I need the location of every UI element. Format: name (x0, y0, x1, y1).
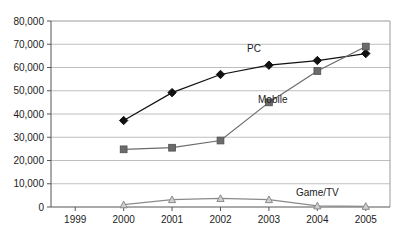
y-axis-tick-label: 0 (38, 202, 44, 213)
x-axis-tick-label: 2002 (209, 214, 232, 225)
series-annotation-pc: PC (247, 43, 261, 54)
x-axis-tick-label: 2001 (161, 214, 184, 225)
y-axis-tick-label: 10,000 (13, 178, 44, 189)
x-axis-tick-label: 2000 (113, 214, 136, 225)
data-point-marker (362, 43, 369, 50)
y-axis-tick-label: 20,000 (13, 155, 44, 166)
y-axis-tick-label: 40,000 (13, 109, 44, 120)
x-axis-tick-labels: 1999200020012002200320042005 (64, 214, 377, 225)
data-point-marker (217, 137, 224, 144)
line-chart: 010,00020,00030,00040,00050,00060,00070,… (0, 0, 406, 239)
y-axis-ticks (47, 21, 51, 207)
x-axis-tick-label: 2004 (306, 214, 329, 225)
x-axis-tick-label: 1999 (64, 214, 87, 225)
series-annotation-mobile: Mobile (258, 94, 288, 105)
data-point-marker (314, 68, 321, 75)
y-axis-tick-label: 50,000 (13, 85, 44, 96)
x-axis-tick-label: 2003 (258, 214, 281, 225)
y-axis-tick-label: 30,000 (13, 132, 44, 143)
x-axis-ticks (75, 207, 366, 211)
data-point-marker (120, 146, 127, 153)
chart-container: 010,00020,00030,00040,00050,00060,00070,… (0, 0, 406, 239)
y-axis-tick-label: 70,000 (13, 39, 44, 50)
y-axis-tick-label: 80,000 (13, 16, 44, 27)
x-axis-tick-label: 2005 (355, 214, 378, 225)
y-axis-tick-labels: 010,00020,00030,00040,00050,00060,00070,… (13, 16, 44, 213)
y-axis-tick-label: 60,000 (13, 62, 44, 73)
series-annotation-game-tv: Game/TV (296, 187, 339, 198)
data-point-marker (169, 144, 176, 151)
